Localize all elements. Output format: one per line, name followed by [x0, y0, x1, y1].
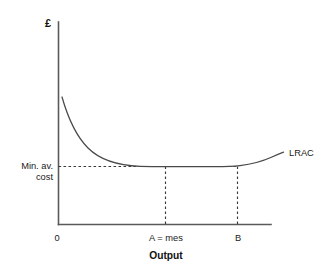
chart-canvas: £ Min. av. cost 0 A = mes B Output LRAC: [0, 0, 326, 269]
lrac-curve-label: LRAC: [289, 148, 314, 158]
origin-label: 0: [54, 233, 59, 243]
min-av-cost-label-line1: Min. av.: [21, 161, 53, 171]
x-tick-label-mes: A = mes: [149, 233, 183, 243]
x-axis-title: Output: [149, 250, 183, 261]
y-axis-currency-label: £: [45, 17, 51, 29]
x-tick-label-b: B: [235, 233, 241, 243]
lrac-chart-figure: £ Min. av. cost 0 A = mes B Output LRAC: [0, 0, 326, 269]
axes-group: [59, 22, 272, 225]
lrac-curve: [62, 97, 284, 167]
min-av-cost-label-line2: cost: [36, 172, 53, 182]
